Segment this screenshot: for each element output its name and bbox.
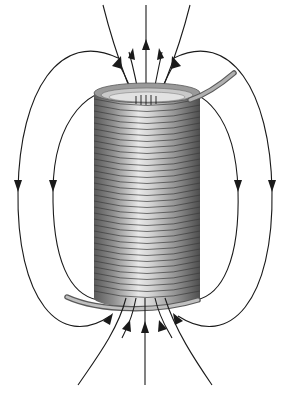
arrow-down-icon — [268, 180, 276, 192]
bottom-arrows — [103, 313, 183, 333]
arrow-down-icon — [49, 180, 57, 192]
field-lines-bottom — [78, 298, 212, 385]
arrow-up-icon — [122, 320, 131, 332]
arrow-up-icon — [142, 39, 150, 50]
arrow-down-icon — [14, 180, 22, 192]
arrow-up-icon — [157, 48, 164, 60]
solenoid-coil — [94, 83, 200, 308]
solenoid-figure — [0, 0, 285, 397]
arrow-up-icon — [141, 321, 149, 333]
solenoid-diagram — [0, 0, 285, 397]
arrow-up-icon — [171, 56, 181, 69]
arrow-down-icon — [234, 180, 242, 192]
